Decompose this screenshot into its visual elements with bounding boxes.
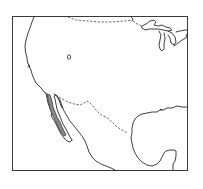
us-canada-border-east — [133, 21, 142, 26]
us-mexico-border — [56, 95, 127, 133]
great-salt-lake — [67, 55, 70, 59]
lake-of-woods-mark — [131, 17, 133, 21]
lake-superior — [142, 20, 172, 31]
range-map — [0, 0, 203, 189]
map-frame — [13, 17, 188, 171]
pacific-coastline — [25, 17, 46, 93]
lake-michigan — [159, 31, 165, 51]
coast-notch — [28, 64, 30, 67]
species-range-shading — [47, 94, 66, 136]
gulf-coast — [131, 106, 187, 170]
lake-erie-ontario — [174, 30, 187, 46]
us-canada-border — [68, 17, 132, 22]
lake-huron — [168, 31, 176, 45]
